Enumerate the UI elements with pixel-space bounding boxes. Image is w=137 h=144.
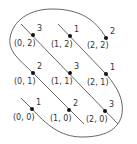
point-1-1 xyxy=(68,71,72,75)
point-1-2 xyxy=(68,34,72,38)
coord-label: (2, 0) xyxy=(86,115,108,124)
value-label: 1 xyxy=(36,98,41,107)
value-label: 2 xyxy=(37,62,42,71)
coord-label: (1, 0) xyxy=(50,114,72,123)
point-1-0 xyxy=(67,108,71,112)
lattice-diagram: 3 1 2 2 3 1 1 2 3 (0, 2) (1, 2) (2, 2) (… xyxy=(0,0,137,144)
point-0-1 xyxy=(31,71,35,75)
value-label: 2 xyxy=(110,27,115,36)
value-label: 3 xyxy=(74,62,79,71)
value-label: 1 xyxy=(110,63,115,72)
point-2-0 xyxy=(103,109,107,113)
coord-label: (0, 1) xyxy=(14,77,36,86)
coord-label: (0, 2) xyxy=(14,39,36,48)
coord-label: (1, 1) xyxy=(51,77,73,86)
coord-label: (2, 2) xyxy=(87,41,109,50)
coord-label: (0, 0) xyxy=(13,113,35,122)
point-0-2 xyxy=(31,33,35,37)
value-label: 3 xyxy=(109,100,114,109)
point-0-0 xyxy=(30,107,34,111)
outer-curve-top xyxy=(10,9,106,124)
point-2-2 xyxy=(104,36,108,40)
point-2-1 xyxy=(104,72,108,76)
value-label: 1 xyxy=(74,25,79,34)
value-label: 2 xyxy=(73,99,78,108)
coord-label: (2, 1) xyxy=(87,78,109,87)
value-label: 3 xyxy=(37,24,42,33)
coord-label: (1, 2) xyxy=(51,40,73,49)
